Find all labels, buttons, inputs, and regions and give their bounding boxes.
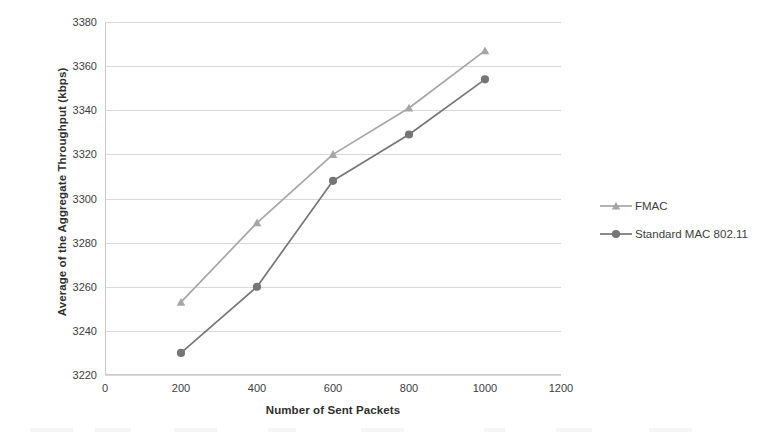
data-point-marker	[177, 349, 185, 357]
data-point-marker	[481, 46, 490, 54]
y-axis-tick-label: 3340	[51, 104, 97, 116]
x-axis-tick-label: 600	[303, 382, 363, 394]
data-point-marker	[481, 75, 489, 83]
legend-marker-circle-icon	[600, 227, 632, 241]
legend-label: Standard MAC 802.11	[635, 228, 748, 240]
x-axis-tick-label: 1000	[455, 382, 515, 394]
x-axis-tick-label: 0	[75, 382, 135, 394]
series-fmac	[177, 46, 490, 305]
series-standard-mac-802-11	[177, 75, 489, 357]
plot-area: 322032403260328033003320334033603380 020…	[105, 22, 561, 375]
scan-artifact	[30, 428, 750, 432]
data-point-marker	[329, 177, 337, 185]
legend-item[interactable]: FMAC	[600, 192, 780, 220]
x-axis-tick-label: 400	[227, 382, 287, 394]
data-point-marker	[253, 283, 261, 291]
legend-label: FMAC	[635, 200, 668, 212]
legend-item[interactable]: Standard MAC 802.11	[600, 220, 780, 248]
y-axis-tick-label: 3240	[51, 325, 97, 337]
legend-marker-triangle-icon	[600, 199, 632, 213]
data-point-marker	[329, 150, 338, 158]
series-layer	[105, 22, 561, 375]
x-axis-tick-label: 1200	[531, 382, 591, 394]
y-axis-tick-label: 3320	[51, 148, 97, 160]
x-axis-tick-label: 200	[151, 382, 211, 394]
line-chart-figure: Average of the Aggregate Throughput (kbp…	[0, 0, 784, 436]
x-axis-tick-label: 800	[379, 382, 439, 394]
y-axis-tick-label: 3220	[51, 369, 97, 381]
data-point-marker	[405, 130, 413, 138]
y-axis-tick-label: 3380	[51, 16, 97, 28]
y-axis-tick-label: 3260	[51, 281, 97, 293]
y-axis-tick-label: 3360	[51, 60, 97, 72]
gridline	[105, 375, 561, 376]
series-line	[181, 79, 485, 353]
x-axis-title: Number of Sent Packets	[105, 404, 561, 416]
y-axis-tick-label: 3280	[51, 237, 97, 249]
chart-legend: FMACStandard MAC 802.11	[600, 192, 780, 248]
y-axis-tick-label: 3300	[51, 193, 97, 205]
series-line	[181, 51, 485, 303]
